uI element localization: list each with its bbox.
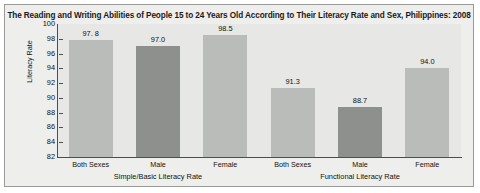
y-axis-line: [57, 24, 58, 158]
chart-title: The Reading and Writing Abilities of Peo…: [5, 11, 473, 20]
bar-both-sexes-group-2: [271, 88, 315, 157]
x-category-label: Female: [393, 160, 461, 169]
bar-value-label: 98.5: [200, 24, 250, 33]
bar-value-label: 88.7: [335, 96, 385, 105]
x-category-label: Male: [326, 160, 394, 169]
bar-female-group-1: [203, 35, 247, 157]
group-title: Functional Literacy Rate: [259, 172, 461, 181]
y-tick-label: 100: [43, 19, 55, 28]
y-tick-mark: [59, 157, 63, 158]
bar-both-sexes-group-1: [69, 40, 113, 157]
y-tick-label: 90: [47, 93, 55, 102]
y-tick-label: 92: [47, 78, 55, 87]
group-title: Simple/Basic Literacy Rate: [57, 172, 259, 181]
x-category-label: Both Sexes: [259, 160, 327, 169]
plot-background: [57, 24, 461, 157]
bar-male-group-1: [136, 46, 180, 157]
bar-male-group-2: [338, 107, 382, 157]
bar-value-label: 91.3: [268, 77, 318, 86]
y-tick-mark: [59, 68, 63, 69]
y-tick-mark: [59, 83, 63, 84]
y-tick-mark: [59, 142, 63, 143]
plot-area: [57, 24, 461, 157]
y-tick-label: 88: [47, 108, 55, 117]
y-tick-label: 96: [47, 49, 55, 58]
y-tick-mark: [59, 127, 63, 128]
y-tick-label: 98: [47, 34, 55, 43]
y-tick-label: 86: [47, 122, 55, 131]
x-category-label: Both Sexes: [57, 160, 125, 169]
x-category-label: Female: [191, 160, 259, 169]
bar-female-group-2: [405, 68, 449, 157]
bar-value-label: 97. 8: [66, 29, 116, 38]
y-axis-label: Literacy Rate: [25, 32, 34, 92]
x-axis-line: [57, 157, 462, 158]
y-tick-label: 94: [47, 63, 55, 72]
y-tick-mark: [59, 39, 63, 40]
y-tick-label: 84: [47, 137, 55, 146]
y-tick-label: 82: [47, 152, 55, 161]
bar-value-label: 94.0: [402, 57, 452, 66]
x-category-label: Male: [124, 160, 192, 169]
bar-value-label: 97.0: [133, 35, 183, 44]
y-tick-mark: [59, 98, 63, 99]
y-tick-mark: [59, 54, 63, 55]
chart-panel: The Reading and Writing Abilities of Peo…: [4, 4, 474, 187]
y-tick-mark: [59, 113, 63, 114]
